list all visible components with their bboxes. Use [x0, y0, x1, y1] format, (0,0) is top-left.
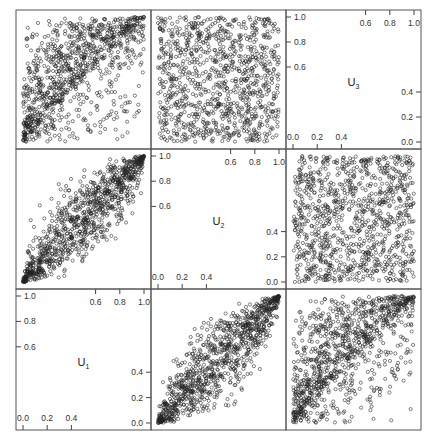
scatter-panel-r1c2	[286, 149, 421, 289]
scatter-points	[22, 154, 146, 283]
tick-label: 0.4	[200, 272, 212, 282]
diagonal-panel-u1: U10.60.81.01.00.80.60.00.20.40.40.20.0	[16, 289, 151, 430]
tick-label: 0.0	[287, 132, 299, 142]
tick-label: 1.0	[408, 18, 420, 28]
tick-label: 0.4	[266, 227, 278, 237]
scatter-panel-r1c0	[16, 149, 151, 289]
variable-label: U3	[348, 76, 360, 90]
tick-label: 0.8	[159, 176, 171, 186]
tick-label: 1.0	[294, 12, 306, 22]
tick-label: 1.0	[24, 291, 36, 301]
tick-label: 0.6	[24, 342, 36, 352]
tick-label: 0.6	[159, 201, 171, 211]
tick-label: 1.0	[138, 297, 150, 307]
tick-label: 0.0	[131, 418, 143, 428]
tick-label: 0.2	[311, 132, 323, 142]
scatter-panel-r2c1	[151, 289, 286, 430]
scatter-points	[157, 294, 281, 424]
tick-label: 0.2	[266, 252, 278, 262]
tick-label: 0.0	[152, 272, 164, 282]
scatter-panel-r2c2	[286, 289, 421, 430]
tick-label: 1.0	[159, 151, 171, 161]
scatter-points	[292, 154, 416, 283]
panels-layer: U30.60.81.01.00.80.60.00.20.40.40.20.0U2…	[16, 10, 421, 430]
tick-label: 0.4	[335, 132, 347, 142]
scatter-points	[292, 295, 416, 425]
tick-label: 0.2	[41, 413, 53, 423]
tick-label: 0.4	[65, 413, 77, 423]
tick-label: 0.8	[384, 18, 396, 28]
tick-label: 0.4	[401, 87, 413, 97]
scatter-points	[21, 15, 145, 143]
tick-label: 1.0	[273, 157, 285, 167]
diagonal-panel-u2: U20.60.81.01.00.80.60.00.20.40.40.20.0	[151, 149, 286, 289]
tick-label: 0.6	[225, 157, 237, 167]
tick-label: 0.2	[401, 112, 413, 122]
scatter-points	[156, 16, 280, 144]
tick-label: 0.2	[176, 272, 188, 282]
variable-label: U1	[78, 356, 90, 370]
tick-label: 0.6	[294, 62, 306, 72]
diagonal-panel-u3: U30.60.81.01.00.80.60.00.20.40.40.20.0	[286, 10, 421, 149]
tick-label: 0.8	[24, 316, 36, 326]
tick-label: 0.0	[17, 413, 29, 423]
tick-label: 0.8	[249, 157, 261, 167]
tick-label: 0.0	[266, 277, 278, 287]
tick-label: 0.6	[360, 18, 372, 28]
tick-label: 0.6	[90, 297, 102, 307]
tick-label: 0.8	[114, 297, 126, 307]
scatter-panel-r0c0	[16, 10, 151, 149]
scatter-panel-r0c1	[151, 10, 286, 149]
variable-label: U2	[213, 215, 225, 229]
tick-label: 0.2	[131, 393, 143, 403]
tick-label: 0.4	[131, 367, 143, 377]
scatterplot-matrix: U30.60.81.01.00.80.60.00.20.40.40.20.0U2…	[0, 0, 435, 438]
tick-label: 0.0	[401, 137, 413, 147]
tick-label: 0.8	[294, 37, 306, 47]
